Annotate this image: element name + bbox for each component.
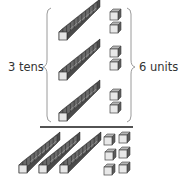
- total-unit: [119, 162, 130, 173]
- tens-rod-3: [59, 80, 100, 121]
- unit-cube: [110, 59, 121, 70]
- unit-cube: [110, 89, 121, 100]
- units-label: 6 units: [139, 62, 178, 74]
- unit-cube: [110, 46, 121, 57]
- total-unit: [104, 164, 115, 175]
- base-ten-diagram: 3 tens 6 units: [0, 0, 179, 181]
- tens-label: 3 tens: [8, 62, 44, 74]
- right-brace: [127, 8, 135, 122]
- blocks-illustration: [0, 0, 179, 181]
- tens-rod-2: [59, 39, 100, 80]
- unit-cube: [110, 22, 121, 33]
- total-unit: [119, 132, 130, 143]
- total-unit: [119, 147, 130, 158]
- unit-cube: [110, 102, 121, 113]
- tens-rod-1: [59, 0, 100, 40]
- total-unit: [105, 149, 116, 160]
- total-unit: [104, 134, 115, 145]
- left-brace: [43, 8, 51, 122]
- unit-cube: [110, 9, 121, 20]
